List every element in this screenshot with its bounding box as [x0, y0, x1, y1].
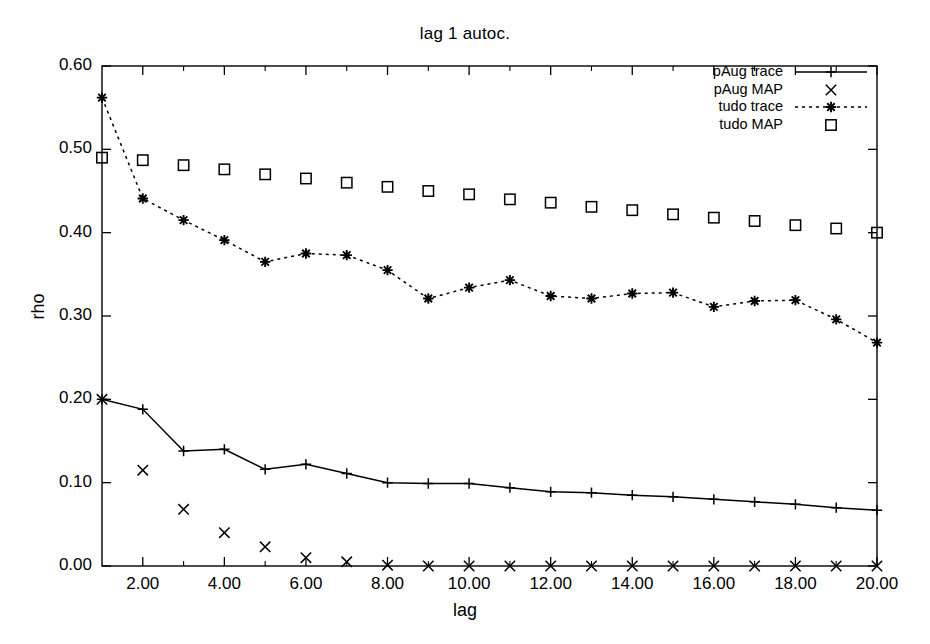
legend-label: tudo MAP: [697, 116, 792, 134]
x-axis-label: lag: [0, 600, 930, 621]
data-point-asterisk: [178, 215, 188, 225]
legend-label: pAug MAP: [697, 81, 792, 99]
data-point-square: [505, 194, 515, 204]
data-point-square: [790, 220, 800, 230]
data-point-square: [219, 164, 229, 174]
data-point-plus: [831, 502, 841, 512]
y-tick-label: 0.60: [28, 55, 92, 75]
data-point-asterisk: [423, 293, 433, 303]
data-point-square: [826, 119, 836, 129]
data-point-plus: [627, 490, 637, 500]
legend-label: pAug trace: [697, 63, 792, 81]
data-point-square: [342, 177, 352, 187]
y-tick-label: 0.30: [28, 305, 92, 325]
data-point-asterisk: [749, 296, 759, 306]
data-point-square: [423, 186, 433, 196]
plot-frame: [102, 66, 877, 566]
data-point-plus: [219, 444, 229, 454]
x-tick-label: 8.00: [348, 574, 428, 594]
x-tick-label: 12.00: [511, 574, 591, 594]
data-point-plus: [545, 487, 555, 497]
data-point-asterisk: [464, 282, 474, 292]
legend-item: pAug MAP: [697, 81, 870, 99]
series-paug-trace: [97, 394, 882, 515]
data-point-plus: [382, 477, 392, 487]
data-point-square: [382, 182, 392, 192]
chart-legend: pAug tracepAug MAPtudo tracetudo MAP: [697, 63, 870, 133]
data-point-plus: [872, 505, 882, 515]
data-point-square: [464, 189, 474, 199]
data-point-asterisk: [138, 193, 148, 203]
series-line: [102, 399, 877, 510]
data-point-plus: [464, 478, 474, 488]
x-tick-label: 14.00: [592, 574, 672, 594]
y-tick-label: 0.50: [28, 138, 92, 158]
y-tick-label: 0.10: [28, 472, 92, 492]
series-paug-map: [97, 394, 882, 571]
data-point-plus: [423, 478, 433, 488]
legend-swatch: [792, 81, 870, 99]
data-point-cross: [826, 84, 836, 94]
legend-swatch: [792, 98, 870, 116]
x-tick-label: 6.00: [266, 574, 346, 594]
chart-figure: lag 1 autoc. lag rho 0.000.100.200.300.4…: [0, 0, 930, 644]
data-point-asterisk: [826, 102, 836, 112]
data-point-square: [668, 209, 678, 219]
data-point-plus: [301, 459, 311, 469]
x-tick-label: 10.00: [429, 574, 509, 594]
legend-swatch: [792, 63, 870, 81]
data-point-square: [545, 197, 555, 207]
data-point-plus: [342, 468, 352, 478]
data-point-square: [627, 205, 637, 215]
data-point-asterisk: [260, 257, 270, 267]
data-point-square: [586, 202, 596, 212]
x-tick-label: 4.00: [184, 574, 264, 594]
x-tick-label: 2.00: [103, 574, 183, 594]
data-point-plus: [826, 67, 836, 77]
x-tick-label: 20.00: [837, 574, 917, 594]
data-point-asterisk: [505, 275, 515, 285]
data-point-cross: [219, 527, 229, 537]
data-point-plus: [260, 464, 270, 474]
data-point-plus: [505, 482, 515, 492]
legend-item: pAug trace: [697, 63, 870, 81]
data-point-asterisk: [790, 295, 800, 305]
data-point-plus: [668, 492, 678, 502]
data-point-asterisk: [545, 291, 555, 301]
data-point-asterisk: [97, 92, 107, 102]
x-tick-label: 18.00: [755, 574, 835, 594]
data-point-asterisk: [219, 235, 229, 245]
data-point-asterisk: [342, 250, 352, 260]
data-point-square: [749, 216, 759, 226]
data-point-plus: [709, 494, 719, 504]
y-tick-label: 0.20: [28, 388, 92, 408]
legend-swatch: [792, 116, 870, 134]
data-point-square: [709, 212, 719, 222]
data-point-asterisk: [831, 314, 841, 324]
series-tudo-map: [97, 152, 882, 237]
data-point-cross: [138, 465, 148, 475]
chart-title: lag 1 autoc.: [0, 24, 930, 44]
data-point-plus: [749, 497, 759, 507]
data-point-cross: [260, 542, 270, 552]
data-point-square: [178, 160, 188, 170]
data-point-square: [260, 169, 270, 179]
legend-label: tudo trace: [697, 98, 792, 116]
legend-item: tudo MAP: [697, 116, 870, 134]
data-point-asterisk: [668, 287, 678, 297]
y-tick-label: 0.00: [28, 555, 92, 575]
x-tick-label: 16.00: [674, 574, 754, 594]
data-point-plus: [790, 499, 800, 509]
series-line: [102, 98, 877, 343]
data-point-square: [138, 155, 148, 165]
data-point-asterisk: [627, 288, 637, 298]
data-point-asterisk: [709, 302, 719, 312]
legend-item: tudo trace: [697, 98, 870, 116]
data-point-asterisk: [586, 293, 596, 303]
data-point-asterisk: [301, 248, 311, 258]
data-point-square: [301, 173, 311, 183]
data-point-square: [831, 223, 841, 233]
data-point-plus: [586, 487, 596, 497]
data-point-asterisk: [382, 265, 392, 275]
data-point-asterisk: [872, 337, 882, 347]
